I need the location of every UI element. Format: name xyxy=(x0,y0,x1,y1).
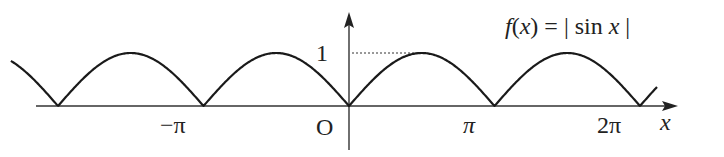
abs-sin-curve xyxy=(11,53,657,106)
origin-label: O xyxy=(316,115,333,139)
y-tick-label-1: 1 xyxy=(316,41,328,65)
paren: ( xyxy=(512,13,520,39)
function-label: f(x) = | sin x | xyxy=(505,14,630,38)
sin-arg: x xyxy=(609,13,620,39)
x-tick-label-neg-pi: −π xyxy=(160,113,186,137)
equals: = xyxy=(538,13,564,39)
sin-text: sin xyxy=(569,13,609,39)
func-arg: x xyxy=(520,13,531,39)
abs-bar: | xyxy=(619,13,630,39)
x-tick-label-2pi: 2π xyxy=(597,113,621,137)
x-axis-label: x xyxy=(660,110,671,134)
x-tick-label-pi: π xyxy=(463,113,475,137)
func-name: f xyxy=(505,13,512,39)
